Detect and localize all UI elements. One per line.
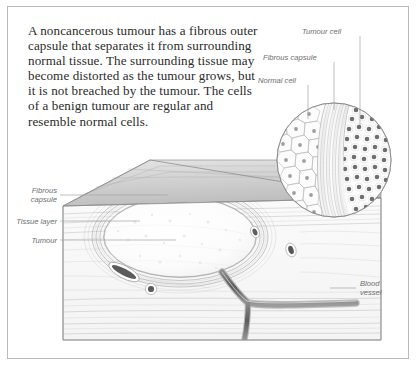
label-tumour-cell: Tumour cell [302,27,341,36]
label-normal-cell: Normal cell [258,76,296,85]
label-fibrous-capsule-block: Fibrous capsule [0,186,57,205]
label-tissue-layer: Tissue layer [0,217,57,226]
figure-root: A noncancerous tumour has a fibrous oute… [0,0,417,372]
label-blood-vessel: Blood vessel [360,279,382,298]
label-tumour: Tumour [0,236,57,245]
description-paragraph: A noncancerous tumour has a fibrous oute… [28,23,280,129]
label-fibrous-capsule-inset: Fibrous capsule [263,53,317,62]
